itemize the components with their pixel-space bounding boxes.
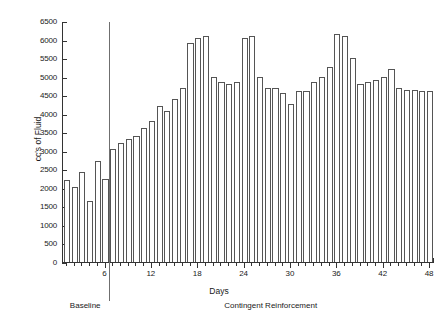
bar xyxy=(172,99,178,262)
bar xyxy=(195,38,201,262)
x-tick-mark-major xyxy=(383,263,384,268)
x-tick-mark-minor xyxy=(220,263,221,266)
x-tick-label: 18 xyxy=(185,269,209,278)
x-tick-mark-minor xyxy=(81,263,82,266)
x-tick-label: 42 xyxy=(371,269,395,278)
bar xyxy=(87,201,93,262)
bar xyxy=(242,38,248,262)
bar xyxy=(342,36,348,262)
x-tick-mark-minor xyxy=(228,263,229,266)
y-axis-top-cap xyxy=(62,22,67,23)
x-tick-mark-minor xyxy=(120,263,121,266)
bar xyxy=(419,91,425,262)
x-tick-label: 30 xyxy=(278,269,302,278)
x-tick-mark-minor xyxy=(89,263,90,266)
x-tick-mark-major xyxy=(197,263,198,268)
x-tick-mark-minor xyxy=(367,263,368,266)
x-tick-mark-minor xyxy=(190,263,191,266)
x-tick-mark-minor xyxy=(313,263,314,266)
x-tick-mark-major xyxy=(429,263,430,268)
bar xyxy=(311,82,317,262)
bar xyxy=(218,82,224,262)
bar xyxy=(226,84,232,262)
x-tick-mark-minor xyxy=(282,263,283,266)
x-axis-title: Days xyxy=(0,286,438,296)
bar xyxy=(164,111,170,262)
x-tick-mark-minor xyxy=(213,263,214,266)
x-tick-mark-minor xyxy=(375,263,376,266)
y-tick-label: 4500 xyxy=(19,91,57,100)
x-tick-mark-minor xyxy=(97,263,98,266)
x-tick-mark-minor xyxy=(298,263,299,266)
x-tick-mark-minor xyxy=(236,263,237,266)
x-tick-mark-minor xyxy=(182,263,183,266)
y-tick-label: 0 xyxy=(19,258,57,267)
x-tick-mark-minor xyxy=(135,263,136,266)
phase-label-contingent: Contingent Reinforcement xyxy=(191,301,351,310)
x-tick-mark-minor xyxy=(159,263,160,266)
x-tick-mark-minor xyxy=(174,263,175,266)
bar xyxy=(327,67,333,262)
y-tick-label: 6500 xyxy=(19,17,57,26)
x-tick-mark-minor xyxy=(421,263,422,266)
x-tick-label: 48 xyxy=(417,269,438,278)
x-tick-mark-minor xyxy=(205,263,206,266)
x-tick-mark-major xyxy=(336,263,337,268)
bar xyxy=(365,82,371,262)
x-tick-mark-minor xyxy=(166,263,167,266)
x-tick-mark-minor xyxy=(66,263,67,266)
y-tick-label: 2000 xyxy=(19,184,57,193)
y-tick-label: 3500 xyxy=(19,128,57,137)
x-tick-mark-minor xyxy=(321,263,322,266)
bar xyxy=(334,34,340,262)
bar xyxy=(95,161,101,262)
x-tick-mark-minor xyxy=(112,263,113,266)
bar xyxy=(412,90,418,262)
x-tick-label: 6 xyxy=(93,269,117,278)
x-tick-mark-minor xyxy=(329,263,330,266)
bar xyxy=(72,187,78,262)
x-tick-mark-minor xyxy=(344,263,345,266)
bar xyxy=(381,77,387,262)
x-tick-mark-minor xyxy=(74,263,75,266)
bar xyxy=(288,104,294,262)
bar xyxy=(133,136,139,262)
bar xyxy=(234,82,240,262)
x-tick-mark-minor xyxy=(275,263,276,266)
x-tick-mark-minor xyxy=(352,263,353,266)
x-tick-mark-minor xyxy=(414,263,415,266)
bar xyxy=(203,36,209,262)
bar xyxy=(118,143,124,262)
plot-frame xyxy=(62,22,433,263)
y-tick-label: 4000 xyxy=(19,110,57,119)
bar xyxy=(272,88,278,262)
bar xyxy=(110,149,116,262)
x-tick-mark-minor xyxy=(305,263,306,266)
y-tick-label: 1000 xyxy=(19,221,57,230)
x-tick-mark-minor xyxy=(360,263,361,266)
y-tick-label: 5000 xyxy=(19,73,57,82)
bar xyxy=(296,91,302,262)
bar xyxy=(180,88,186,262)
y-tick-label: 1500 xyxy=(19,202,57,211)
bar xyxy=(427,91,433,262)
x-tick-label: 24 xyxy=(232,269,256,278)
x-tick-mark-minor xyxy=(251,263,252,266)
y-tick-label: 3000 xyxy=(19,147,57,156)
x-tick-mark-minor xyxy=(143,263,144,266)
x-tick-label: 36 xyxy=(324,269,348,278)
bar xyxy=(249,36,255,262)
x-tick-mark-major xyxy=(244,263,245,268)
x-tick-mark-minor xyxy=(259,263,260,266)
x-tick-mark-major xyxy=(105,263,106,268)
bar xyxy=(373,80,379,262)
bar xyxy=(350,58,356,262)
bar xyxy=(404,90,410,262)
bar xyxy=(141,128,147,262)
bar xyxy=(79,172,85,262)
x-tick-mark-major xyxy=(151,263,152,268)
x-tick-mark-minor xyxy=(390,263,391,266)
bar xyxy=(187,43,193,262)
bar xyxy=(149,121,155,262)
x-tick-mark-minor xyxy=(267,263,268,266)
